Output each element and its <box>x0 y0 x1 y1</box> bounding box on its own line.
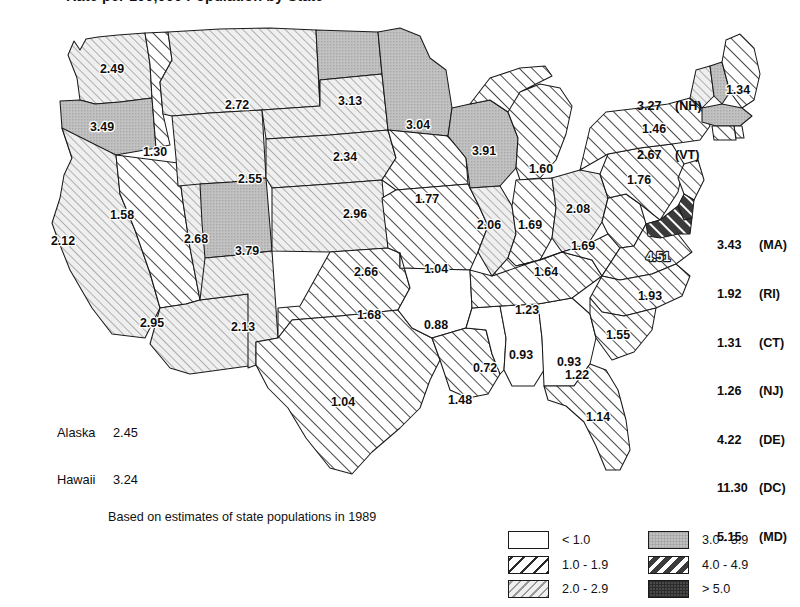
annot-dc: 11.30(DC) <box>717 480 787 496</box>
annot-de-value: 4.22 <box>717 432 759 448</box>
label-CA: 2.12 <box>51 234 75 248</box>
label-IA: 1.77 <box>415 192 439 206</box>
label-WY: 2.55 <box>238 172 262 186</box>
offshore-states-annotations: Alaska2.45 Hawaii3.24 <box>57 394 138 518</box>
label-MD: 4.51 <box>646 250 670 264</box>
label-VA: 1.93 <box>638 289 662 303</box>
legend-item-2-29[interactable]: 2.0 - 2.9 <box>508 577 608 602</box>
label-NC: 1.55 <box>606 328 630 342</box>
label-MT: 2.72 <box>225 98 249 112</box>
map-legend: < 1.0 1.0 - 1.9 2.0 - 2.9 3.0 - 3.9 4.0 … <box>508 528 798 602</box>
label-KY: 1.64 <box>534 265 558 279</box>
label-KS: 2.66 <box>354 265 378 279</box>
legend-column-2: 3.0 - 3.9 4.0 - 4.9 > 5.0 <box>648 528 748 602</box>
state-KS[interactable] <box>272 180 388 252</box>
annot-nh-value: 3.27 <box>637 98 675 114</box>
legend-swatch-dark-hatch <box>648 556 689 574</box>
label-NE: 2.96 <box>343 207 367 221</box>
label-AL: 0.93 <box>509 348 533 362</box>
state-TX[interactable] <box>256 310 440 474</box>
label-IL: 2.06 <box>477 218 501 232</box>
annot-ma: 3.43(MA) <box>717 237 787 253</box>
label-FL: 1.14 <box>586 410 610 424</box>
annot-nh: 3.27(NH) <box>637 98 702 114</box>
legend-item-gt5[interactable]: > 5.0 <box>648 577 748 602</box>
label-LA: 1.48 <box>448 393 472 407</box>
annot-ri: 1.92(RI) <box>717 286 787 302</box>
legend-item-4-49[interactable]: 4.0 - 4.9 <box>648 553 748 578</box>
legend-swatch-solid-dark <box>648 580 689 598</box>
annot-ma-state: (MA) <box>759 238 787 252</box>
label-IN: 1.69 <box>518 218 542 232</box>
legend-label-3-39: 3.0 - 3.9 <box>702 533 748 547</box>
label-WA: 2.49 <box>100 62 124 76</box>
annot-vt-value: 2.67 <box>637 147 675 163</box>
annot-ma-value: 3.43 <box>717 237 759 253</box>
annot-nj: 1.26(NJ) <box>717 383 787 399</box>
label-ID: 1.30 <box>143 145 167 159</box>
label-UT: 2.68 <box>184 232 208 246</box>
legend-swatch-white <box>508 531 549 549</box>
annot-nh-state: (NH) <box>675 99 702 113</box>
label-GA: 0.93 <box>557 355 581 369</box>
annot-nj-value: 1.26 <box>717 383 759 399</box>
legend-item-lt1[interactable]: < 1.0 <box>508 528 608 553</box>
label-AZ: 2.95 <box>140 316 164 330</box>
label-SC: 1.22 <box>565 368 589 382</box>
annot-ct-value: 1.31 <box>717 335 759 351</box>
legend-item-3-39[interactable]: 3.0 - 3.9 <box>648 528 748 553</box>
label-SD: 2.34 <box>333 150 357 164</box>
legend-swatch-hatch-bold <box>508 556 549 574</box>
annot-dc-value: 11.30 <box>717 480 759 496</box>
label-MS: 0.72 <box>473 361 497 375</box>
label-TX: 1.04 <box>331 395 355 409</box>
annot-vt: 2.67(VT) <box>637 147 702 163</box>
annot-ct: 1.31(CT) <box>717 335 787 351</box>
northeast-state-list: 3.43(MA) 1.92(RI) 1.31(CT) 1.26(NJ) 4.22… <box>717 205 787 578</box>
annot-nj-state: (NJ) <box>759 384 784 398</box>
annot-ct-state: (CT) <box>759 336 784 350</box>
label-ME: 1.34 <box>726 83 750 97</box>
label-MO: 1.04 <box>424 262 448 276</box>
label-AR: 0.88 <box>424 318 448 332</box>
legend-label-4-49: 4.0 - 4.9 <box>702 558 748 572</box>
annot-dc-state: (DC) <box>759 481 786 495</box>
label-CO: 3.79 <box>235 244 259 258</box>
label-MN: 3.04 <box>406 118 430 132</box>
label-TN: 1.23 <box>515 303 539 317</box>
legend-column-1: < 1.0 1.0 - 1.9 2.0 - 2.9 <box>508 528 608 602</box>
northeast-top-annotations: 3.27(NH) 2.67(VT) <box>637 66 702 196</box>
label-MI: 1.60 <box>529 162 553 176</box>
annot-ri-state: (RI) <box>759 287 780 301</box>
label-ND: 3.13 <box>338 94 362 108</box>
annot-alaska-value: 2.45 <box>113 425 138 440</box>
label-OR: 3.49 <box>90 120 114 134</box>
legend-label-lt1: < 1.0 <box>562 533 590 547</box>
annot-hawaii-value: 3.24 <box>113 472 138 487</box>
legend-swatch-hatch-fine <box>508 580 549 598</box>
annot-hawaii: Hawaii3.24 <box>57 472 138 488</box>
annot-alaska: Alaska2.45 <box>57 425 138 441</box>
label-WV: 1.69 <box>571 239 595 253</box>
annot-vt-state: (VT) <box>675 148 699 162</box>
label-OK: 1.68 <box>357 308 381 322</box>
annot-hawaii-name: Hawaii <box>57 472 113 488</box>
legend-swatch-gray <box>648 531 689 549</box>
state-CT[interactable] <box>712 126 736 140</box>
annot-ri-value: 1.92 <box>717 286 759 302</box>
legend-item-1-19[interactable]: 1.0 - 1.9 <box>508 553 608 578</box>
label-NM: 2.13 <box>231 320 255 334</box>
label-NV: 1.58 <box>110 208 134 222</box>
legend-label-gt5: > 5.0 <box>702 582 730 596</box>
legend-label-2-29: 2.0 - 2.9 <box>562 582 608 596</box>
figure-title: Rate per 100,000 Population by State <box>66 0 323 4</box>
state-MA[interactable] <box>702 104 752 126</box>
state-NE[interactable] <box>266 130 396 188</box>
annot-de: 4.22(DE) <box>717 432 787 448</box>
figure-caption: Based on estimates of state populations … <box>108 510 376 524</box>
legend-label-1-19: 1.0 - 1.9 <box>562 558 608 572</box>
annot-alaska-name: Alaska <box>57 425 113 441</box>
label-OH: 2.08 <box>566 202 590 216</box>
map-figure: Rate per 100,000 Population by State <box>0 0 800 607</box>
label-WI: 3.91 <box>472 144 496 158</box>
